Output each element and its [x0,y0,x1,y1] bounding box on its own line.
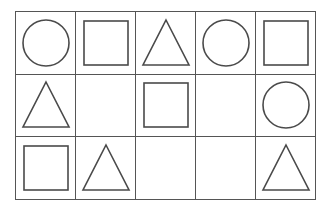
shape-cell-content [16,137,75,199]
empty-cell [136,137,195,199]
shape-cell-r3-c1 [16,137,76,200]
shape-cell-content [136,75,195,137]
triangle-icon [141,18,191,68]
shape-cell-r3-c3 [136,137,196,200]
empty-cell [76,75,135,137]
shape-cell-r1-c1 [16,12,76,75]
triangle-icon [81,143,131,193]
shape-cell-content [256,75,315,137]
shape-cell-content [16,12,75,74]
square-icon [81,18,131,68]
shape-grid-table [15,11,316,200]
shape-cell-content [196,137,255,199]
square-icon [141,80,191,130]
circle-icon [201,18,251,68]
triangle-icon [21,80,71,130]
shape-cell-content [76,137,135,199]
shape-cell-r1-c4 [196,12,256,75]
empty-cell [196,75,255,137]
shape-grid-body [16,12,316,200]
shape-cell-content [256,12,315,74]
empty-cell [196,137,255,199]
shape-grid-row [16,12,316,75]
square-icon [21,143,71,193]
shape-grid-container [15,11,310,196]
circle-icon [261,80,311,130]
shape-grid-row [16,74,316,137]
shape-cell-content [16,75,75,137]
shape-cell-r1-c2 [76,12,136,75]
shape-cell-r2-c3 [136,74,196,137]
shape-cell-content [136,12,195,74]
shape-cell-r2-c5 [256,74,316,137]
square-icon [261,18,311,68]
shape-cell-r3-c2 [76,137,136,200]
shape-cell-content [76,12,135,74]
shape-cell-content [196,12,255,74]
shape-cell-r3-c5 [256,137,316,200]
circle-icon [21,18,71,68]
shape-cell-r3-c4 [196,137,256,200]
shape-cell-content [256,137,315,199]
shape-cell-r1-c5 [256,12,316,75]
shape-cell-content [196,75,255,137]
shape-grid-row [16,137,316,200]
shape-cell-content [136,137,195,199]
triangle-icon [261,143,311,193]
shape-cell-r2-c2 [76,74,136,137]
shape-cell-r2-c1 [16,74,76,137]
shape-cell-r2-c4 [196,74,256,137]
shape-cell-content [76,75,135,137]
shape-cell-r1-c3 [136,12,196,75]
